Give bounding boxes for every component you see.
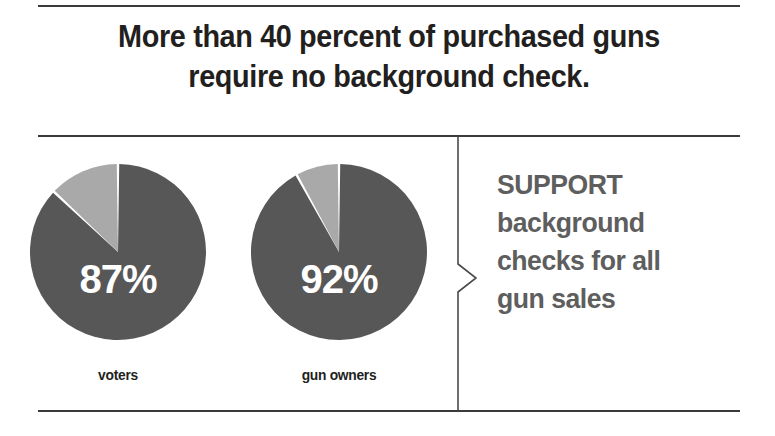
pie-label-gun-owners: gun owners bbox=[257, 366, 421, 384]
pie-value-voters: 87% bbox=[29, 259, 207, 299]
pie-chart-voters-graphic bbox=[29, 163, 207, 341]
headline-line-2: require no background check. bbox=[63, 57, 716, 97]
caption-support-background-checks: SUPPORT background checks for all gun sa… bbox=[497, 166, 730, 318]
pie-value-gun-owners: 92% bbox=[250, 259, 428, 299]
caption-line-3: checks for all bbox=[497, 242, 730, 280]
middle-divider-rule bbox=[38, 135, 740, 137]
caption-line-1: SUPPORT bbox=[497, 166, 730, 204]
infographic-root: More than 40 percent of purchased guns r… bbox=[0, 0, 775, 436]
caption-line-4: gun sales bbox=[497, 280, 730, 318]
pie-chart-gun-owners: 92% gun owners bbox=[250, 163, 428, 341]
caption-line-2: background bbox=[497, 204, 730, 242]
bottom-divider-rule bbox=[38, 410, 740, 412]
pie-label-voters: voters bbox=[36, 366, 200, 384]
pie-slice-dark-gun-owners bbox=[251, 164, 427, 340]
bracket-divider-icon bbox=[448, 136, 482, 412]
pie-chart-gun-owners-graphic bbox=[250, 163, 428, 341]
page-title: More than 40 percent of purchased guns r… bbox=[63, 17, 716, 97]
pie-chart-voters: 87% voters bbox=[29, 163, 207, 341]
headline-line-1: More than 40 percent of purchased guns bbox=[63, 17, 716, 57]
top-divider-rule bbox=[38, 5, 740, 7]
